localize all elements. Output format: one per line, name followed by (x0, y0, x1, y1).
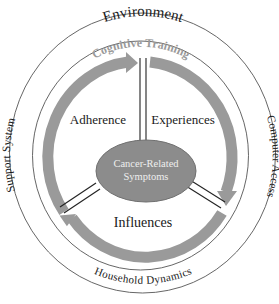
computer-access-label: Computer Access (265, 114, 279, 200)
experiences-label: Experiences (151, 112, 215, 127)
cognitive-training-label: Cognitive Training (90, 36, 193, 62)
adherence-label: Adherence (70, 112, 127, 127)
cognitive-training-diagram: Environment Support System Computer Acce… (0, 0, 279, 304)
arrowhead-top-icon (126, 52, 138, 73)
center-label-line2: Symptoms (124, 171, 169, 182)
household-dynamics-label: Household Dynamics (93, 264, 193, 285)
center-label-line1: Cancer-Related (113, 158, 179, 169)
environment-label: Environment (101, 3, 187, 26)
support-system-label: Support System (0, 116, 17, 193)
influences-label: Influences (114, 215, 172, 230)
